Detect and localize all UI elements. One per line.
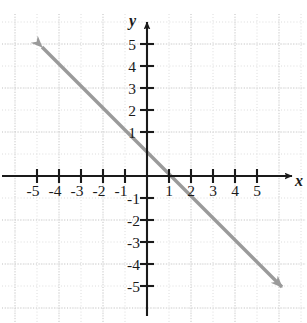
line-y-equals-minus-x-plus-1 — [42, 47, 282, 287]
x-tick-label--4: -4 — [49, 182, 62, 199]
x-tick-label-1: 1 — [165, 182, 173, 199]
x-tick-label-5: 5 — [253, 182, 261, 199]
y-tick-label--1: -1 — [127, 190, 140, 207]
y-tick-label-4: 4 — [128, 58, 136, 75]
x-tick-label--3: -3 — [71, 182, 84, 199]
graph-canvas: -5 -4 -3 -2 -1 1 2 3 4 5 5 4 3 2 1 -1 -2… — [0, 0, 307, 323]
x-tick-label-2: 2 — [187, 182, 195, 199]
y-tick-label--4: -4 — [127, 256, 140, 273]
y-axis-tick-labels: 5 4 3 2 1 -1 -2 -3 -4 -5 — [127, 36, 140, 295]
grid-lines-major — [2, 14, 306, 322]
y-tick-label-3: 3 — [128, 80, 136, 97]
x-tick-label-3: 3 — [209, 182, 217, 199]
x-tick-label--2: -2 — [93, 182, 106, 199]
y-tick-label-1: 1 — [128, 124, 136, 141]
x-tick-label--1: -1 — [115, 182, 128, 199]
y-tick-label--3: -3 — [127, 234, 140, 251]
grid-lines — [2, 14, 306, 322]
plotted-line-series — [42, 47, 282, 287]
x-tick-label-4: 4 — [231, 182, 239, 199]
coordinate-plane-figure: -5 -4 -3 -2 -1 1 2 3 4 5 5 4 3 2 1 -1 -2… — [0, 0, 307, 323]
y-tick-label-5: 5 — [128, 36, 136, 53]
x-tick-label--5: -5 — [27, 182, 40, 199]
y-tick-label--5: -5 — [127, 278, 140, 295]
x-axis-tick-labels: -5 -4 -3 -2 -1 1 2 3 4 5 — [27, 182, 262, 199]
y-tick-label--2: -2 — [127, 212, 140, 229]
x-axis-label: x — [294, 172, 303, 189]
y-tick-label-2: 2 — [128, 102, 136, 119]
y-axis-label: y — [127, 12, 137, 30]
